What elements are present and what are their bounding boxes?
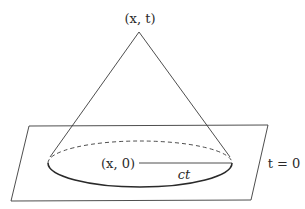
- radius-label: ct: [178, 167, 191, 182]
- plane-label: t = 0: [268, 156, 301, 171]
- cone-left-edge: [50, 32, 139, 157]
- center-label: (x, 0): [101, 156, 135, 171]
- ellipse-front: [48, 163, 232, 187]
- cone-right-edge: [139, 32, 230, 157]
- apex-label: (x, t): [125, 11, 156, 26]
- ellipse-back-dashed: [48, 141, 232, 163]
- light-cone-diagram: (x, t) (x, 0) ct t = 0: [0, 0, 305, 209]
